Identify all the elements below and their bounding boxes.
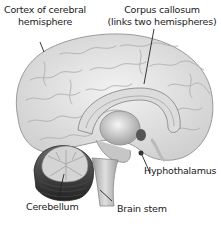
label-corpus-line1: Corpus callosum <box>106 4 218 16</box>
thalamus <box>100 111 140 145</box>
cerebellum <box>34 146 94 201</box>
label-hypothalamus: Hyphothalamus <box>144 165 216 177</box>
hypothalamus-structure <box>139 151 144 156</box>
brain-stem <box>92 158 118 206</box>
label-cortex-line2: hemisphere <box>4 16 86 28</box>
label-corpus-callosum: Corpus callosum (links two hemispheres) <box>106 4 218 28</box>
label-hypothalamus-text: Hyphothalamus <box>144 165 216 176</box>
brain-diagram: Cortex of cerebral hemisphere Corpus cal… <box>0 0 221 228</box>
label-cerebellum: Cerebellum <box>26 201 78 213</box>
cortex-leader <box>40 42 44 52</box>
label-cortex-line1: Cortex of cerebral <box>4 4 86 16</box>
label-brainstem-text: Brain stem <box>117 203 167 214</box>
label-corpus-line2: (links two hemispheres) <box>106 16 218 28</box>
label-cortex: Cortex of cerebral hemisphere <box>4 4 86 28</box>
label-brain-stem: Brain stem <box>117 203 167 215</box>
brain-illustration <box>0 0 221 228</box>
label-cerebellum-text: Cerebellum <box>26 201 78 212</box>
